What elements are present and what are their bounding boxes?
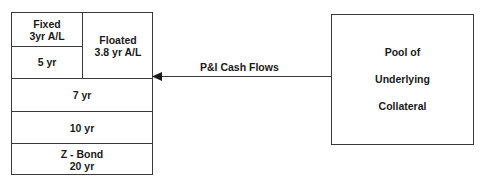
tranche-7yr: 7 yr <box>12 79 152 111</box>
tranche-zbond-term: 20 yr <box>70 160 95 172</box>
tranche-floated-al: 3.8 yr A/L <box>95 46 142 58</box>
tranche-5yr-label: 5 yr <box>38 56 57 68</box>
tranche-fixed: Fixed 3yr A/L <box>12 13 82 46</box>
tranche-10yr: 10 yr <box>12 112 152 143</box>
collateral-pool: Pool of Underlying Collateral <box>331 14 474 145</box>
tranche-zbond: Z - Bond 20 yr <box>12 144 152 175</box>
pool-line-3: Collateral <box>379 93 427 120</box>
tranche-10yr-label: 10 yr <box>70 122 95 134</box>
tranche-fixed-al: 3yr A/L <box>29 30 64 42</box>
tranche-floated-title: Floated <box>99 34 136 46</box>
pool-line-1: Pool of <box>385 39 421 66</box>
tranche-structure: Fixed 3yr A/L 5 yr Floated 3.8 yr A/L 7 … <box>11 12 153 175</box>
cash-flow-label: P&I Cash Flows <box>200 61 279 73</box>
pool-text: Pool of Underlying Collateral <box>332 15 473 144</box>
tranche-5yr: 5 yr <box>12 46 82 78</box>
tranche-fixed-title: Fixed <box>33 18 60 30</box>
tranche-zbond-title: Z - Bond <box>61 148 104 160</box>
cash-flow-arrow-line <box>160 76 331 77</box>
tranche-7yr-label: 7 yr <box>73 89 92 101</box>
pool-line-2: Underlying <box>375 66 430 93</box>
arrowhead-icon <box>152 72 162 81</box>
tranche-floated: Floated 3.8 yr A/L <box>83 13 153 78</box>
